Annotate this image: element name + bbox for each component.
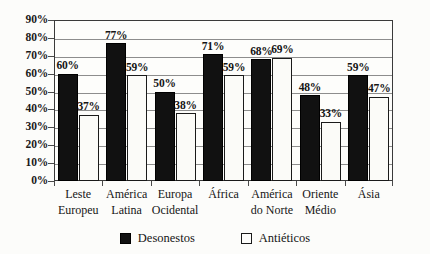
legend-entry: Antiéticos [241, 232, 310, 245]
y-tick-label: 70% [0, 50, 48, 62]
bar-antieticos [176, 113, 196, 181]
bar-chart-figure: 0%10%20%30%40%50%60%70%80%90% 60%37%77%5… [0, 0, 430, 254]
bar-antieticos [224, 75, 244, 181]
bar-value-label: 59% [122, 62, 152, 74]
bar-antieticos [369, 97, 389, 181]
light-square-icon [241, 233, 252, 244]
bar-antieticos [127, 75, 147, 181]
bar-group: 59%47% [345, 20, 393, 181]
y-axis: 0%10%20%30%40%50%60%70%80%90% [0, 0, 48, 254]
chart-legend: DesonestosAntiéticos [0, 228, 430, 248]
bar-antieticos [79, 115, 99, 181]
bar-value-label: 71% [198, 41, 228, 53]
x-category-label-line2: Médio [288, 202, 352, 218]
bars-layer: 60%37%77%59%50%38%71%59%68%69%48%33%59%4… [54, 20, 393, 181]
bar-group: 48%33% [296, 20, 344, 181]
bar-value-label: 47% [364, 83, 394, 95]
bar-value-label: 77% [101, 30, 131, 42]
y-tick-label: 0% [0, 175, 48, 187]
y-tick-label: 90% [0, 14, 48, 26]
bar-desonestos [58, 74, 78, 181]
y-tick-label: 20% [0, 139, 48, 151]
bar-value-label: 38% [171, 100, 201, 112]
bar-value-label: 37% [74, 101, 104, 113]
bar-desonestos [251, 59, 271, 181]
x-category-label: Ásia [337, 186, 401, 202]
bar-value-label: 59% [343, 62, 373, 74]
dark-square-icon [120, 233, 131, 244]
y-tick-label: 10% [0, 157, 48, 169]
bar-value-label: 60% [53, 60, 83, 72]
x-category-label-line1: Ásia [337, 186, 401, 202]
bar-group: 68%69% [248, 20, 296, 181]
bar-group: 50%38% [151, 20, 199, 181]
y-tick-label: 80% [0, 32, 48, 44]
bar-antieticos [272, 58, 292, 181]
bar-group: 77%59% [102, 20, 150, 181]
y-tick-label: 60% [0, 68, 48, 80]
legend-label: Antiéticos [259, 232, 310, 245]
bar-value-label: 48% [295, 82, 325, 94]
x-category-label-line2: Ocidental [143, 202, 207, 218]
bar-antieticos [321, 122, 341, 181]
x-axis-labels: LesteEuropeuAméricaLatinaEuropaOcidental… [54, 186, 393, 228]
bar-value-label: 59% [219, 62, 249, 74]
legend-label: Desonestos [138, 232, 195, 245]
bar-group: 71%59% [199, 20, 247, 181]
legend-entry: Desonestos [120, 232, 195, 245]
bar-value-label: 33% [316, 108, 346, 120]
bar-group: 60%37% [54, 20, 102, 181]
y-tick-label: 50% [0, 86, 48, 98]
y-tick-label: 40% [0, 103, 48, 115]
y-tick-label: 30% [0, 121, 48, 133]
bar-value-label: 50% [150, 78, 180, 90]
bar-value-label: 69% [267, 44, 297, 56]
